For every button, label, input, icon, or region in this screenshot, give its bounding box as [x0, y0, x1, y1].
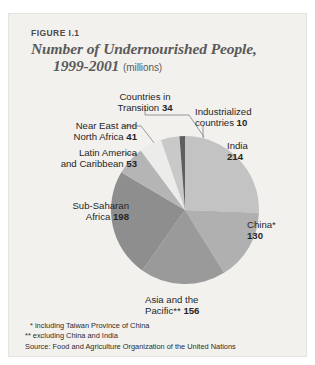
label-industrialized-line1: Industrialized [195, 106, 252, 117]
label-india-value: 214 [227, 151, 243, 162]
label-near-east-north-africa: Near East and North Africa 41 [15, 120, 137, 142]
label-china-name: China* [247, 219, 276, 230]
label-transition-value: 34 [162, 102, 173, 113]
label-countries-in-transition: Countries in Transition 34 [101, 91, 189, 113]
label-asia-line2: Pacific** [145, 305, 181, 316]
footnote-2: ** excluding China and India [25, 331, 297, 341]
label-subsaharan-line2: Africa [86, 211, 111, 222]
label-neareast-line2: North Africa [74, 131, 124, 142]
label-sub-saharan-africa: Sub-Saharan Africa 198 [19, 200, 129, 222]
label-china-value: 130 [247, 230, 263, 241]
label-india: India 214 [227, 140, 287, 162]
label-transition-line1: Countries in [119, 91, 170, 102]
pie-chart: Countries in Transition 34 Industrialize… [9, 14, 306, 356]
figure-source: Source: Food and Agriculture Organizatio… [25, 342, 297, 352]
label-asia-line1: Asia and the [145, 294, 198, 305]
label-subsaharan-value: 198 [113, 211, 129, 222]
label-industrialized-value: 10 [237, 117, 248, 128]
label-industrialized-countries: Industrialized countries 10 [195, 106, 281, 128]
label-latin-value: 53 [126, 158, 137, 169]
label-latin-america-caribbean: Latin America and Caribbean 53 [9, 147, 137, 169]
figure-panel: FIGURE I.1 Number of Undernourished Peop… [9, 14, 306, 356]
label-asia-value: 156 [183, 305, 199, 316]
label-subsaharan-line1: Sub-Saharan [72, 200, 129, 211]
label-india-name: India [227, 140, 248, 151]
label-latin-line1: Latin America [79, 147, 137, 158]
label-transition-line2: Transition [117, 102, 159, 113]
footnote-1: * including Taiwan Province of China [25, 321, 297, 331]
label-latin-line2: and Caribbean [61, 158, 124, 169]
label-asia-pacific: Asia and the Pacific** 156 [145, 294, 241, 316]
label-industrialized-line2: countries [195, 117, 234, 128]
figure-footnotes: * including Taiwan Province of China ** … [25, 321, 297, 352]
label-china: China* 130 [247, 219, 301, 241]
label-neareast-line1: Near East and [76, 120, 137, 131]
label-neareast-value: 41 [126, 131, 137, 142]
